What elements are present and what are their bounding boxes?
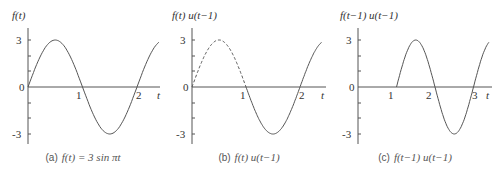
- caption-a: (a)f(t) = 3 sin πt: [0, 151, 166, 163]
- svg-text:f(t) u(t−1): f(t) u(t−1): [172, 9, 217, 22]
- chart-c: f(t−1) u(t−1) 3 0 -3 1 2 3 t: [332, 0, 498, 150]
- svg-text:3: 3: [16, 34, 22, 46]
- svg-text:3: 3: [180, 34, 186, 46]
- y-axis-label: f(t): [12, 9, 26, 22]
- svg-text:f(t−1) u(t−1): f(t−1) u(t−1): [340, 9, 398, 22]
- svg-text:1: 1: [388, 89, 394, 101]
- caption-c: (c)f(t−1) u(t−1): [332, 151, 498, 163]
- chart-a: f(t) 3 0 -3 1 2 t: [0, 0, 166, 150]
- svg-text:-3: -3: [12, 128, 22, 140]
- svg-text:t: t: [486, 89, 490, 101]
- svg-text:3: 3: [346, 34, 352, 46]
- svg-text:0: 0: [183, 81, 189, 93]
- caption-b: (b)f(t) u(t−1): [166, 151, 332, 163]
- svg-text:t: t: [321, 89, 325, 101]
- svg-text:-3: -3: [342, 128, 352, 140]
- svg-text:1: 1: [76, 89, 82, 101]
- panel-b: f(t) u(t−1) 3 0 -3 1 2 t (b)f(t) u(t−1): [166, 0, 332, 181]
- panel-c: f(t−1) u(t−1) 3 0 -3 1 2 3 t (c)f(t−1) u…: [332, 0, 498, 181]
- svg-text:-3: -3: [176, 128, 186, 140]
- svg-text:1: 1: [240, 89, 246, 101]
- series-solid: [246, 42, 322, 134]
- svg-text:t: t: [157, 89, 161, 101]
- svg-text:2: 2: [426, 89, 432, 101]
- svg-text:0: 0: [19, 81, 25, 93]
- series-dashed: [192, 40, 246, 87]
- svg-text:0: 0: [349, 81, 355, 93]
- chart-b: f(t) u(t−1) 3 0 -3 1 2 t: [166, 0, 332, 150]
- svg-text:2: 2: [299, 89, 305, 101]
- svg-text:2: 2: [136, 89, 142, 101]
- panel-a: f(t) 3 0 -3 1 2 t (a)f(t) = 3 sin πt: [0, 0, 166, 181]
